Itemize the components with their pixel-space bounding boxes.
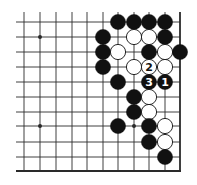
move-number-label: 3: [145, 76, 153, 89]
black-stone: [110, 74, 125, 89]
black-stone: [126, 104, 141, 119]
black-stone: [141, 118, 156, 133]
white-stone: [126, 29, 141, 44]
white-stone: [157, 59, 172, 74]
black-stone: [95, 59, 110, 74]
white-stone: [126, 59, 141, 74]
black-stone: [110, 14, 125, 29]
hoshi-point: [38, 124, 42, 128]
move-number-label: 1: [161, 76, 169, 89]
black-stone: [126, 89, 141, 104]
white-stone: [110, 44, 125, 59]
hoshi-point: [132, 124, 136, 128]
white-stone: [157, 44, 172, 59]
white-stone-move-2: 2: [141, 59, 156, 74]
black-stone: [141, 44, 156, 59]
black-stone: [95, 44, 110, 59]
black-stone: [110, 118, 125, 133]
black-stone: [141, 134, 156, 149]
hoshi-point: [38, 35, 42, 39]
black-stone: [126, 14, 141, 29]
black-stone: [157, 29, 172, 44]
go-board-diagram: 231: [0, 0, 197, 185]
white-stone: [141, 29, 156, 44]
black-stone: [95, 29, 110, 44]
black-stone-move-3: 3: [141, 74, 156, 89]
white-stone: [157, 118, 172, 133]
white-stone: [141, 89, 156, 104]
white-stone: [157, 134, 172, 149]
black-stone: [141, 14, 156, 29]
white-stone: [141, 104, 156, 119]
black-stone: [157, 14, 172, 29]
move-number-label: 2: [145, 61, 153, 74]
black-stone-move-1: 1: [157, 74, 172, 89]
black-stone: [157, 149, 172, 164]
black-stone: [172, 44, 187, 59]
